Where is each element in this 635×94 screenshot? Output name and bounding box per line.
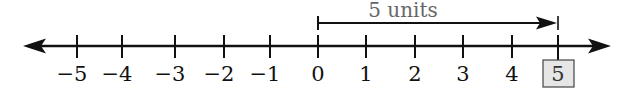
tick-label: 2 [408, 62, 421, 86]
tick-label: 0 [311, 62, 324, 86]
tick-labels: −5 −4 −3 −2 −1 0 1 2 3 4 5 [57, 62, 565, 86]
tick-label: −3 [155, 62, 186, 86]
number-line-diagram: 5 units −5 −4 −3 −2 [0, 0, 635, 94]
highlighted-tick-label: 5 [551, 62, 564, 86]
distance-measure: 5 units [318, 0, 558, 30]
tick-label: 1 [359, 62, 372, 86]
tick-label: −2 [204, 62, 235, 86]
tick-label: 3 [456, 62, 469, 86]
measure-label: 5 units [368, 0, 438, 22]
tick-label: 4 [505, 62, 518, 86]
tick-label: −4 [102, 62, 133, 86]
tick-label: −5 [57, 62, 88, 86]
ticks [77, 35, 558, 60]
tick-label: −1 [250, 62, 281, 86]
